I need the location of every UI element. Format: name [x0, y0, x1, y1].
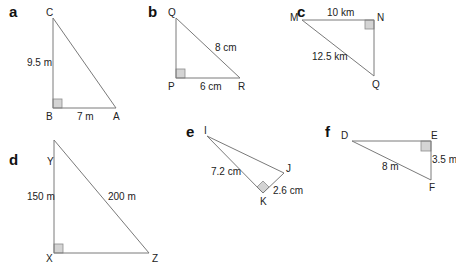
side-label-ba: 7 m: [77, 111, 94, 122]
diagram-canvas: a C B A 9.5 m 7 m b Q P R 8 cm 6 cm c M …: [0, 0, 456, 274]
vertex-r: R: [238, 81, 245, 92]
triangle-e: e I J K 7.2 cm 2.6 cm: [186, 123, 303, 207]
vertex-z: Z: [152, 253, 158, 264]
side-label-jk: 2.6 cm: [273, 185, 303, 196]
vertex-q: Q: [372, 79, 380, 90]
vertex-a: A: [113, 111, 120, 122]
triangle-a: a C B A 9.5 m 7 m: [9, 3, 120, 122]
side-label-qr: 8 cm: [215, 42, 237, 53]
side-label-ik: 7.2 cm: [211, 166, 241, 177]
side-label-ef: 3.5 m: [432, 154, 456, 165]
triangle-outline: [53, 18, 116, 108]
side-label-pr: 6 cm: [200, 81, 222, 92]
vertex-p: P: [168, 81, 175, 92]
side-label-cb: 9.5 m: [27, 57, 52, 68]
vertex-b: B: [46, 111, 53, 122]
vertex-k: K: [260, 196, 267, 207]
side-label-yz: 200 m: [108, 191, 136, 202]
triangles-worksheet: a C B A 9.5 m 7 m b Q P R 8 cm 6 cm c M …: [0, 0, 456, 274]
vertex-f: F: [429, 182, 435, 193]
vertex-q: Q: [168, 7, 176, 18]
right-angle-marker: [54, 244, 63, 253]
right-angle-marker: [53, 99, 62, 108]
vertex-x: X: [46, 253, 53, 264]
vertex-n: N: [377, 12, 384, 23]
vertex-m: M: [290, 12, 298, 23]
vertex-i: I: [204, 125, 207, 136]
vertex-c: C: [46, 7, 53, 18]
side-label-mq: 12.5 km: [312, 51, 348, 62]
side-label-yx: 150 m: [27, 191, 55, 202]
triangle-d: d Y X Z 150 m 200 m: [9, 140, 158, 264]
side-label-mn: 10 km: [327, 7, 354, 18]
part-label-b: b: [148, 3, 157, 20]
right-angle-marker: [365, 20, 374, 29]
part-label-a: a: [9, 3, 18, 20]
vertex-y: Y: [47, 156, 54, 167]
right-angle-marker: [421, 141, 431, 151]
vertex-j: J: [286, 163, 291, 174]
right-angle-marker: [176, 69, 185, 78]
triangle-b: b Q P R 8 cm 6 cm: [148, 3, 245, 92]
vertex-d: D: [341, 130, 348, 141]
part-label-e: e: [186, 123, 194, 140]
triangle-f: f D E F 8 m 3.5 m: [325, 123, 456, 193]
vertex-e: E: [431, 130, 438, 141]
triangle-outline: [302, 20, 374, 76]
side-label-df: 8 m: [382, 161, 399, 172]
part-label-d: d: [9, 151, 18, 168]
triangle-c: c M N Q 10 km 12.5 km: [290, 3, 384, 90]
part-label-f: f: [325, 123, 331, 140]
right-angle-marker: [257, 181, 269, 193]
